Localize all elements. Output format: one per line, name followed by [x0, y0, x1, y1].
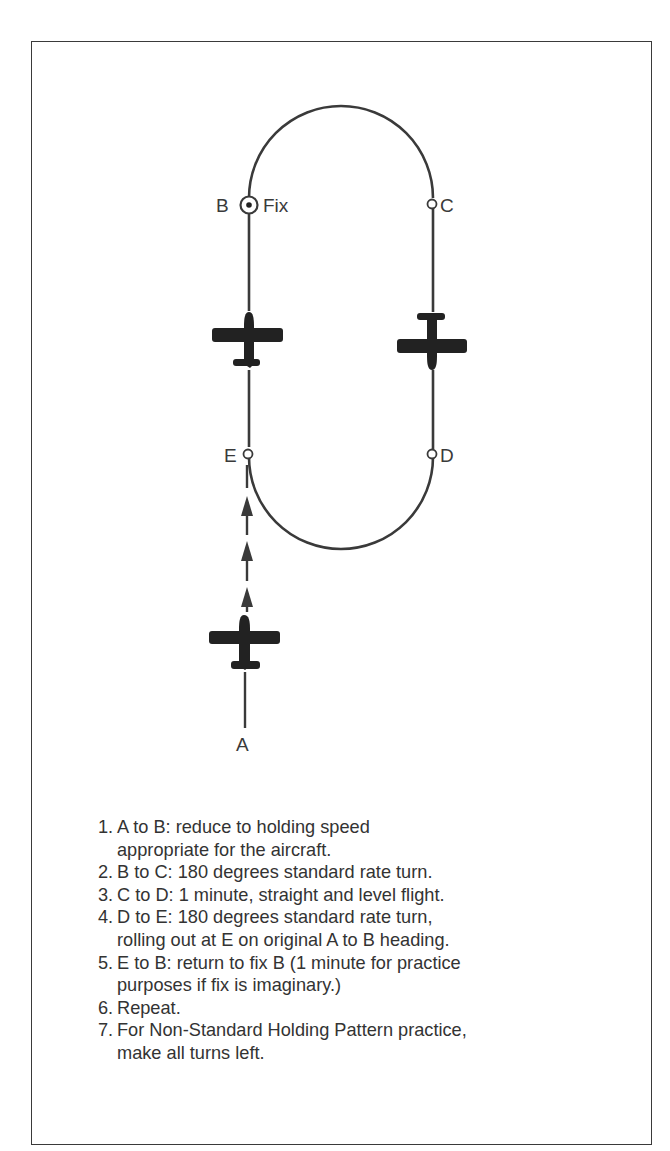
point-c-label: C [440, 195, 454, 216]
step-item: 3. C to D: 1 minute, straight and level … [98, 884, 618, 907]
step-item: 2. B to C: 180 degrees standard rate tur… [98, 861, 618, 884]
point-e-marker [244, 450, 253, 459]
arrow-up-icon [241, 496, 253, 516]
step-text-continued: make all turns left. [117, 1042, 618, 1065]
fix-symbol-icon [241, 197, 258, 214]
step-number: 3. [98, 884, 113, 907]
inbound-approach-arrows [241, 465, 253, 728]
step-item: 7. For Non-Standard Holding Pattern prac… [98, 1019, 618, 1064]
step-text: B to C: 180 degrees standard rate turn. [117, 861, 618, 884]
step-number: 7. [98, 1019, 113, 1042]
step-text-continued: purposes if fix is imaginary.) [117, 974, 618, 997]
step-text: C to D: 1 minute, straight and level fli… [117, 884, 618, 907]
step-number: 1. [98, 816, 113, 839]
instructions-list: 1. A to B: reduce to holding speed appro… [98, 816, 618, 1065]
airplane-icon [209, 615, 280, 670]
step-text: D to E: 180 degrees standard rate turn, [117, 906, 618, 929]
step-item: 4. D to E: 180 degrees standard rate tur… [98, 906, 618, 951]
holding-pattern-diagram: B Fix C D E A [0, 0, 670, 800]
airplane-icon [212, 312, 283, 368]
arrow-up-icon [241, 587, 253, 607]
step-text-continued: appropriate for the aircraft. [117, 839, 618, 862]
step-number: 2. [98, 861, 113, 884]
step-item: 1. A to B: reduce to holding speed appro… [98, 816, 618, 861]
step-text-continued: rolling out at E on original A to B head… [117, 929, 618, 952]
racetrack-path [249, 106, 433, 549]
point-e-label: E [224, 445, 237, 466]
point-b-label: B [216, 195, 229, 216]
step-number: 6. [98, 997, 113, 1020]
arrow-up-icon [241, 541, 253, 561]
step-text: Repeat. [117, 997, 618, 1020]
point-a-label: A [236, 734, 249, 755]
airplane-icon [397, 313, 467, 370]
fix-label: Fix [263, 195, 289, 216]
step-text: E to B: return to fix B (1 minute for pr… [117, 952, 618, 975]
step-item: 5. E to B: return to fix B (1 minute for… [98, 952, 618, 997]
step-item: 6. Repeat. [98, 997, 618, 1020]
step-number: 4. [98, 906, 113, 929]
step-number: 5. [98, 952, 113, 975]
point-d-label: D [440, 445, 454, 466]
step-text: For Non-Standard Holding Pattern practic… [117, 1019, 618, 1042]
point-d-marker [428, 450, 437, 459]
step-text: A to B: reduce to holding speed [117, 816, 618, 839]
point-c-marker [428, 200, 437, 209]
